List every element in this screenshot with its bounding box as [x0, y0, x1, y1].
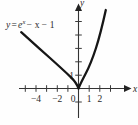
y-axis-group	[75, 4, 82, 119]
x-tick-label--2: −2	[52, 94, 62, 104]
x-axis-arrow-icon	[124, 85, 132, 92]
plot-area: −4 −2 0 1 2 1 x y	[0, 0, 138, 125]
function-curve	[21, 10, 106, 89]
x-tick-labels: −4 −2 0 1 2	[31, 94, 102, 104]
x-tick-label-2: 2	[97, 94, 102, 104]
x-tick-label--4: −4	[31, 94, 41, 104]
graph-figure: y=ex− x− 1 −4	[0, 0, 138, 125]
x-axis-label: x	[132, 84, 138, 94]
x-tick-label-0: 0	[71, 94, 76, 104]
x-tick-label-1: 1	[87, 94, 92, 104]
y-axis-label: y	[79, 0, 85, 8]
